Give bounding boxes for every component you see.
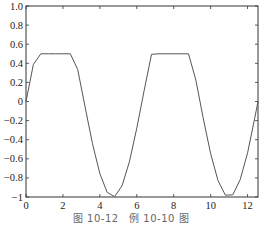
y-tick-label: 0.2 [10, 77, 23, 88]
x-axis-ticks: 024681012 [23, 6, 252, 210]
x-tick-label: 4 [97, 200, 103, 210]
line-chart: 1.00.80.60.40.20−0.2−0.4−0.6−0.8−1 02468… [0, 0, 262, 210]
x-tick-label: 10 [205, 200, 216, 210]
x-tick-label: 8 [171, 200, 176, 210]
figure-caption: 图 10-12 例 10-10 图 [0, 210, 262, 225]
x-tick-label: 6 [134, 200, 139, 210]
x-tick-label: 2 [60, 200, 65, 210]
y-tick-label: −0.6 [4, 153, 23, 164]
y-tick-label: −1 [12, 192, 23, 203]
y-tick-label: −0.4 [4, 134, 24, 145]
y-tick-label: 0.4 [10, 58, 24, 69]
y-tick-label: −0.2 [4, 115, 23, 126]
y-tick-label: −0.8 [4, 172, 23, 183]
y-tick-label: 0 [18, 96, 23, 107]
y-tick-label: 0.6 [10, 39, 23, 50]
y-tick-label: 1.0 [10, 1, 23, 12]
y-tick-label: 0.8 [10, 20, 23, 31]
x-tick-label: 12 [242, 200, 253, 210]
data-line [26, 54, 258, 197]
y-axis-ticks: 1.00.80.60.40.20−0.2−0.4−0.6−0.8−1 [4, 1, 258, 203]
x-tick-label: 0 [23, 200, 28, 210]
